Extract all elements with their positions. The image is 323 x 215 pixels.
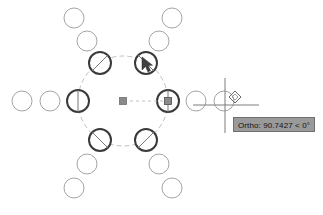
ghost-item bbox=[186, 91, 206, 111]
ghost-item bbox=[77, 31, 97, 51]
base-point-grip[interactable] bbox=[120, 98, 127, 105]
ghost-item bbox=[162, 178, 182, 198]
array-item-left[interactable] bbox=[67, 90, 89, 112]
array-item-lower-right[interactable] bbox=[135, 129, 157, 151]
ghost-item bbox=[214, 91, 234, 111]
ortho-tracking-tooltip: Ortho: 90.7427 < 0° bbox=[233, 117, 315, 132]
ghost-item bbox=[40, 91, 60, 111]
cad-drawing-canvas[interactable]: Ortho: 90.7427 < 0° bbox=[0, 0, 323, 215]
row-count-grip[interactable] bbox=[165, 98, 172, 105]
array-item-upper-left[interactable] bbox=[89, 52, 111, 74]
ghost-item bbox=[64, 178, 84, 198]
ghost-item bbox=[12, 91, 32, 111]
array-item-lower-left[interactable] bbox=[89, 129, 111, 151]
nearest-osnap-marker bbox=[229, 91, 241, 103]
ghost-item bbox=[149, 31, 169, 51]
ghost-item bbox=[149, 154, 169, 174]
ghost-item bbox=[77, 154, 97, 174]
cad-vector-layer[interactable] bbox=[0, 0, 323, 215]
ghost-item bbox=[162, 8, 182, 28]
ghost-item bbox=[64, 8, 84, 28]
